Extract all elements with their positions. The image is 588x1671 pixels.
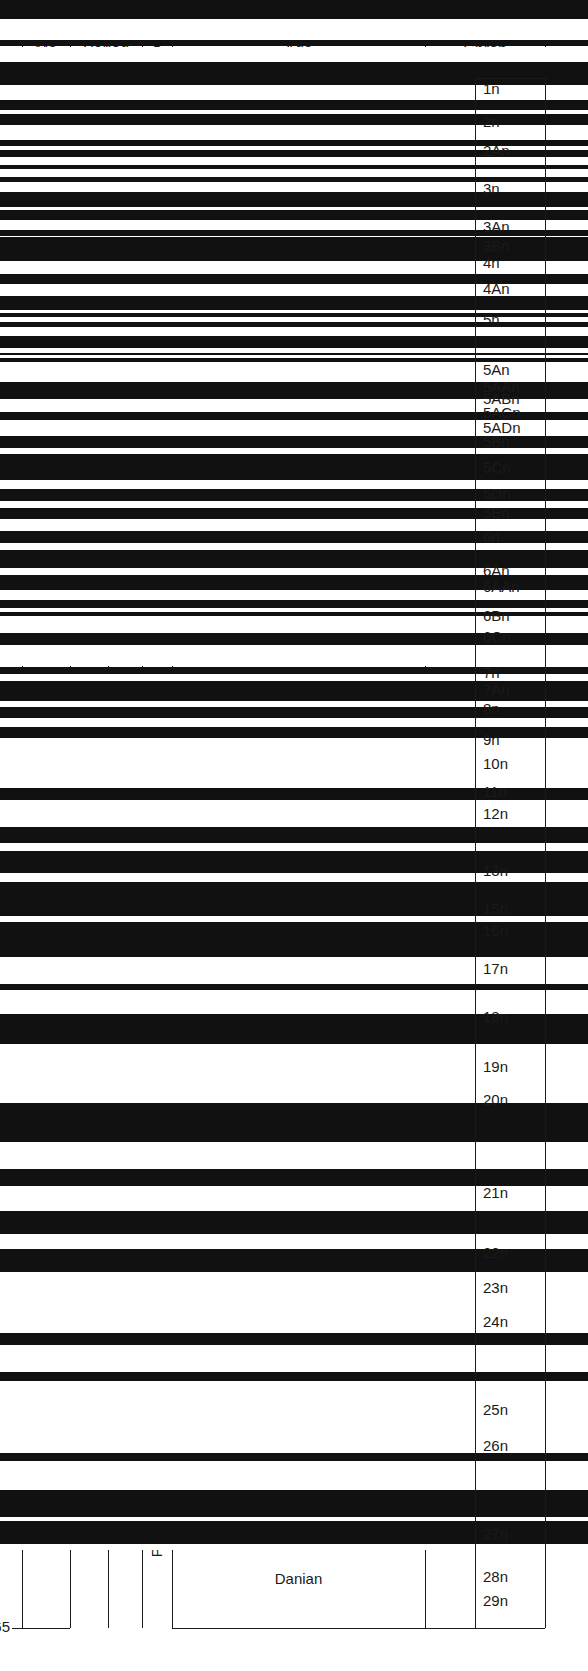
chron-label-11n: 11n [483, 783, 507, 800]
chron-label-9n: 9n [483, 731, 500, 748]
chron-band-normal-18 [0, 192, 588, 207]
chron-label-6Bn: 6Bn [483, 607, 510, 624]
chron-label-12n: 12n [483, 805, 508, 822]
chron-label-6An: 6An [483, 562, 510, 579]
chron-label-3n: 3n [483, 180, 500, 197]
chron-label-5Bn: 5Bn [483, 433, 510, 450]
chron-band-reversed-87 [0, 1142, 588, 1169]
chron-band-normal-2 [0, 40, 588, 47]
chron-label-21n: 21n [483, 1184, 508, 1201]
chron-label-27n: 27n [483, 1525, 508, 1542]
geologic-time-scale-chart: Ma Period Epoch Age Chron 05101520253035… [0, 0, 588, 1671]
chron-band-reversed-25 [0, 261, 588, 274]
chron-band-normal-52 [0, 531, 588, 543]
chron-label-2n: 2n [483, 113, 500, 130]
age-bottom-border [172, 1628, 425, 1629]
chron-label-4n: 4n [483, 254, 500, 271]
chron-label-1n: 1n [483, 80, 500, 97]
chron-label-2An: 2An [483, 142, 510, 159]
axis-tick-label-65: 65 [0, 1618, 10, 1635]
chron-band-normal-70 [0, 727, 588, 738]
chron-label-22n: 22n [483, 1244, 508, 1261]
chron-band-reversed-99 [0, 1461, 588, 1490]
chron-band-normal-8 [0, 114, 588, 124]
chron-label-25n: 25n [483, 1401, 508, 1418]
chron-band-reversed-75 [0, 843, 588, 851]
chron-column-right-border [545, 78, 546, 1628]
chron-bottom-border [425, 1628, 545, 1629]
chron-label-10n: 10n [483, 755, 508, 772]
chron-label-17n: 17n [483, 960, 508, 977]
chron-band-normal-100 [0, 1490, 588, 1517]
chron-band-reversed-15 [0, 169, 588, 177]
chron-label-16n: 16n [483, 922, 508, 939]
chron-band-reversed-5 [0, 85, 588, 99]
chron-band-reversed-103 [0, 1544, 588, 1550]
chron-band-normal-74 [0, 827, 588, 843]
chron-label-23n: 23n [483, 1279, 508, 1296]
chron-band-reversed-63 [0, 645, 588, 667]
chron-label-15n: 15n [483, 900, 508, 917]
chron-polarity-stack [0, 0, 50, 1550]
chron-label-3An: 3An [483, 218, 510, 235]
chron-label-5Cn: 5Cn [483, 459, 511, 476]
chron-label-4An: 4An [483, 280, 510, 297]
chron-band-normal-28 [0, 296, 588, 310]
chron-label-28n: 28n [483, 1568, 508, 1585]
chron-band-normal-96 [0, 1372, 588, 1381]
chron-label-7An: 7An [483, 681, 510, 698]
chron-band-normal-90 [0, 1211, 588, 1234]
chron-label-6n: 6n [483, 528, 500, 545]
chron-band-normal-4 [0, 62, 588, 86]
chron-label-5En: 5En [483, 504, 510, 521]
chron-label-3Bn: 3Bn [483, 237, 510, 254]
chron-label-24n: 24n [483, 1313, 508, 1330]
chron-label-18n: 18n [483, 1008, 508, 1025]
axis-tick-inner-65 [22, 1628, 70, 1629]
chron-band-normal-0 [0, 0, 588, 19]
chron-labels-top-border [475, 78, 545, 79]
chron-band-reversed-3 [0, 47, 588, 62]
chron-label-20n: 20n [483, 1091, 508, 1108]
chron-band-normal-68 [0, 707, 588, 717]
chron-band-reversed-17 [0, 182, 588, 192]
chron-label-6Cn: 6Cn [483, 628, 511, 645]
chron-band-reversed-9 [0, 125, 588, 141]
chron-band-reversed-69 [0, 718, 588, 727]
chron-band-reversed-95 [0, 1345, 588, 1373]
chron-bar-right-border [475, 78, 476, 1628]
chron-band-reversed-1 [0, 19, 588, 40]
chron-label-5Dn: 5Dn [483, 485, 511, 502]
axis-tick-65 [12, 1628, 22, 1629]
chron-band-reversed-33 [0, 327, 588, 336]
chron-band-normal-94 [0, 1333, 588, 1345]
chron-label-29n: 29n [483, 1592, 508, 1609]
chron-band-normal-98 [0, 1453, 588, 1462]
chron-label-5n: 5n [483, 311, 500, 328]
chron-label-8n: 8n [483, 700, 500, 717]
chron-band-normal-64 [0, 667, 588, 675]
chron-band-normal-34 [0, 336, 588, 349]
chron-label-26n: 26n [483, 1437, 508, 1454]
chron-band-normal-6 [0, 100, 588, 110]
chron-label-13n: 13n [483, 862, 508, 879]
chron-label-6AAn: 6AAn [483, 578, 520, 595]
chart-body: 05101520253035404550556065QUATERNARYTERT… [0, 0, 588, 1550]
chron-label-19n: 19n [483, 1058, 508, 1075]
chron-label-7n: 7n [483, 664, 500, 681]
chron-label-5An: 5An [483, 361, 510, 378]
chron-band-normal-86 [0, 1103, 588, 1142]
chron-band-reversed-53 [0, 543, 588, 550]
